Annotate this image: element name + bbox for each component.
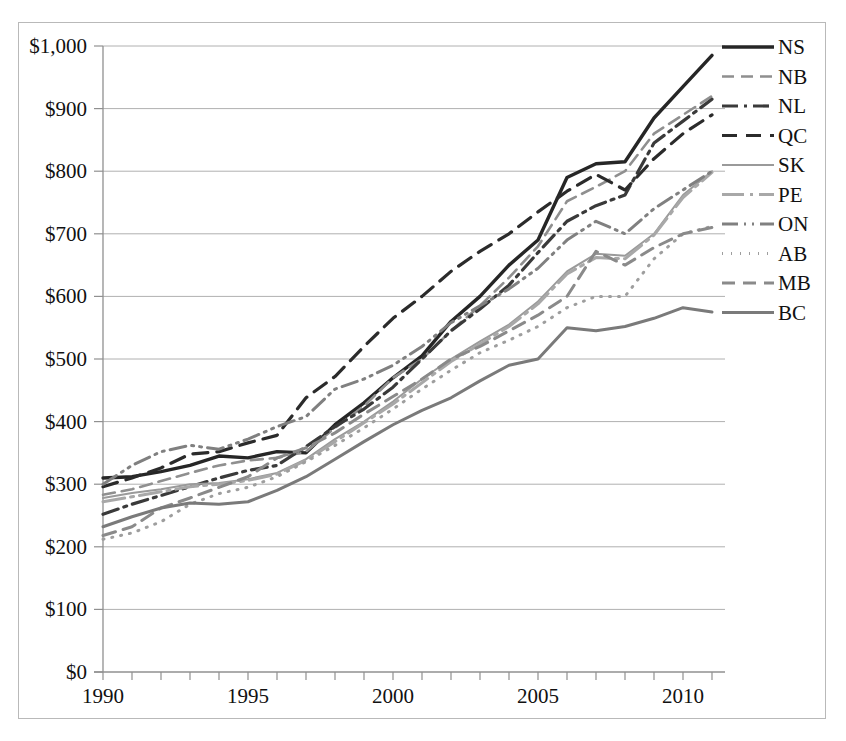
legend xyxy=(0,0,846,741)
line-chart: $0$100$200$300$400$500$600$700$800$900$1… xyxy=(0,0,846,741)
